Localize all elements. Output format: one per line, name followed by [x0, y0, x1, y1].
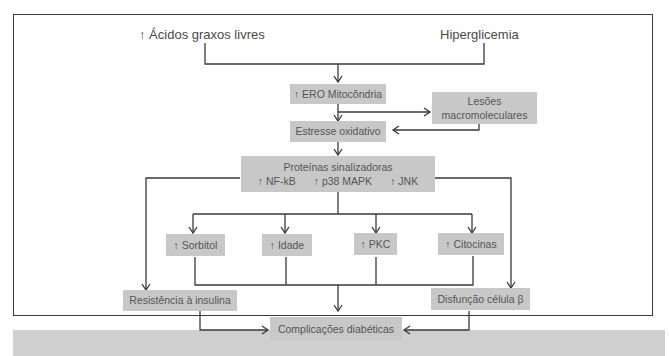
- node-disfuncao-celula-beta: Disfunção célula β: [431, 288, 530, 310]
- node-label: Disfunção célula β: [438, 292, 524, 306]
- node-complicacoes-diabeticas: Complicações diabéticas: [270, 317, 402, 341]
- node-idade: ↑ Idade: [262, 234, 312, 256]
- node-label: ↑ Sorbitol: [174, 238, 218, 252]
- node-label: Complicações diabéticas: [278, 322, 394, 336]
- node-estresse-oxidativo: Estresse oxidativo: [290, 121, 386, 142]
- protein-nfkb: ↑ NF-kB: [258, 174, 296, 188]
- node-proteinas-sinalizadoras: Proteínas sinalizadoras ↑ NF-kB ↑ p38 MA…: [241, 156, 435, 192]
- protein-jnk: ↑ JNK: [390, 174, 418, 188]
- node-lesoes-macromoleculares: Lesões macromoleculares: [432, 92, 537, 124]
- node-label: ↑ ERO Mitocôndria: [294, 87, 382, 101]
- node-ero-mitocondria: ↑ ERO Mitocôndria: [290, 84, 386, 104]
- node-pkc: ↑ PKC: [354, 233, 397, 255]
- input-hiperglicemia: Hiperglicemia: [440, 27, 519, 42]
- node-citocinas: ↑ Citocinas: [438, 233, 504, 255]
- node-resistencia-insulina: Resistência à insulina: [123, 290, 237, 311]
- node-label: Resistência à insulina: [129, 293, 231, 307]
- node-label: ↑ PKC: [361, 237, 391, 251]
- node-label: ↑ Citocinas: [445, 237, 496, 251]
- node-label: Estresse oxidativo: [295, 124, 380, 138]
- protein-p38-mapk: ↑ p38 MAPK: [314, 174, 372, 188]
- node-sorbitol: ↑ Sorbitol: [166, 234, 225, 256]
- node-label-line1: Lesões: [468, 94, 502, 108]
- node-label: ↑ Idade: [270, 238, 304, 252]
- proteinas-list: ↑ NF-kB ↑ p38 MAPK ↑ JNK: [258, 174, 418, 188]
- node-label-line2: macromoleculares: [442, 108, 528, 122]
- node-title: Proteínas sinalizadoras: [283, 160, 392, 174]
- input-acidos-graxos: ↑ Ácidos graxos livres: [139, 27, 265, 42]
